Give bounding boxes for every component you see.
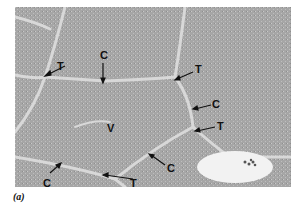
figure-caption: (a) (13, 191, 25, 202)
annotation-label: C (212, 99, 220, 110)
tissue-illustration (15, 7, 291, 187)
annotation-label: T (130, 178, 137, 189)
micrograph (15, 7, 291, 187)
annotation-label: C (167, 163, 175, 174)
annotation-label: T (217, 121, 224, 132)
annotation-label: C (100, 50, 108, 61)
annotation-label: V (107, 123, 114, 134)
annotation-label: T (195, 64, 202, 75)
annotation-label: T (57, 61, 64, 72)
annotation-label: C (43, 178, 51, 189)
